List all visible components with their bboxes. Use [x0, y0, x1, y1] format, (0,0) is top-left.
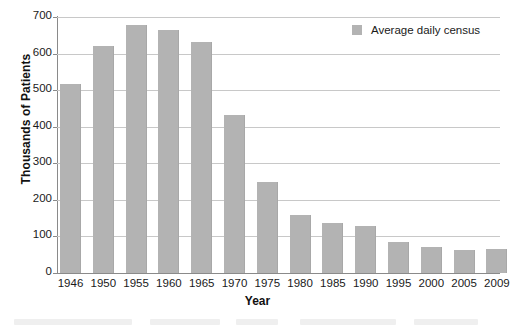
bar: [257, 182, 278, 273]
bar: [486, 249, 507, 273]
bar: [355, 226, 376, 273]
plot-area: [57, 17, 500, 273]
bar: [322, 223, 343, 273]
bar: [191, 42, 212, 273]
x-axis-title: Year: [0, 294, 527, 308]
bar: [388, 242, 409, 273]
bar: [126, 25, 147, 273]
bar: [454, 250, 475, 273]
y-tick-label: 200: [0, 192, 60, 204]
x-tick-label: 2009: [477, 277, 517, 289]
chart-legend: Average daily census: [352, 24, 480, 36]
y-tick-label: 700: [0, 9, 60, 21]
legend-label: Average daily census: [371, 24, 480, 36]
bar: [93, 46, 114, 273]
bar: [290, 215, 311, 274]
y-tick-label: 600: [0, 46, 60, 58]
bar: [421, 247, 442, 273]
y-tick-label: 0: [0, 265, 60, 277]
bar: [158, 30, 179, 273]
y-tick-label: 500: [0, 82, 60, 94]
legend-swatch-icon: [352, 25, 362, 35]
y-tick-label: 300: [0, 155, 60, 167]
bar-chart: Thousands of Patients 010020030040050060…: [0, 0, 527, 330]
y-tick-label: 100: [0, 228, 60, 240]
x-axis-title-text: Year: [245, 294, 270, 308]
y-tick-label: 400: [0, 119, 60, 131]
bar: [224, 115, 245, 273]
bar: [60, 84, 81, 273]
y-tick-mark: [53, 273, 57, 274]
page-bottom-margin: [0, 315, 527, 330]
gridline: [57, 273, 500, 274]
